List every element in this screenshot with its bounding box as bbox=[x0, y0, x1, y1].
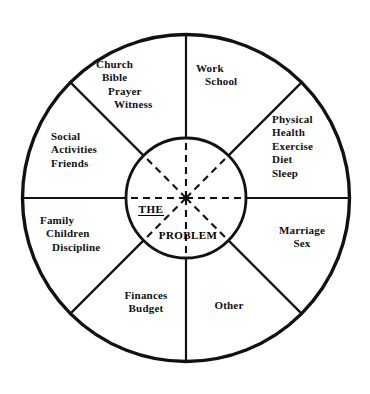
center-label-problem: PROBLEM bbox=[152, 229, 224, 241]
sector-line: Health bbox=[272, 126, 344, 139]
problem-wheel-diagram: Church Bible Prayer Witness Work School … bbox=[0, 0, 370, 394]
sector-line: Bible bbox=[96, 71, 176, 84]
sector-label-marriage: Marriage Sex bbox=[264, 224, 340, 251]
sector-line: Children bbox=[40, 227, 132, 240]
sector-label-church: Church Bible Prayer Witness bbox=[96, 58, 176, 112]
sector-line: Marriage bbox=[264, 224, 340, 237]
sector-line: Sleep bbox=[272, 167, 344, 180]
sector-line: Exercise bbox=[272, 140, 344, 153]
sector-line: Family bbox=[40, 214, 132, 227]
sector-line: Budget bbox=[108, 302, 184, 315]
sector-line: School bbox=[196, 75, 266, 88]
sector-label-finances: Finances Budget bbox=[108, 289, 184, 316]
sector-line: Sex bbox=[264, 237, 340, 250]
sector-line: Physical bbox=[272, 113, 344, 126]
sector-line: Church bbox=[96, 58, 176, 71]
sector-line: Finances bbox=[108, 289, 184, 302]
sector-label-physical: Physical Health Exercise Diet Sleep bbox=[272, 113, 344, 180]
sector-line: Activities bbox=[51, 143, 127, 156]
sector-label-social: Social Activities Friends bbox=[51, 130, 127, 170]
sector-line: Friends bbox=[51, 157, 127, 170]
center-the-text: THE bbox=[138, 203, 163, 216]
sector-line: Discipline bbox=[40, 241, 132, 254]
sector-line: Work bbox=[196, 62, 266, 75]
sector-label-family: Family Children Discipline bbox=[40, 214, 132, 254]
sector-line: Prayer bbox=[96, 85, 176, 98]
sector-label-work: Work School bbox=[196, 62, 266, 89]
sector-label-other: Other bbox=[196, 299, 262, 312]
sector-line: Diet bbox=[272, 153, 344, 166]
sector-line: Other bbox=[196, 299, 262, 312]
wheel-graphics bbox=[0, 0, 370, 394]
center-label-the: THE bbox=[131, 203, 171, 215]
sector-line: Witness bbox=[96, 98, 176, 111]
sector-line: Social bbox=[51, 130, 127, 143]
